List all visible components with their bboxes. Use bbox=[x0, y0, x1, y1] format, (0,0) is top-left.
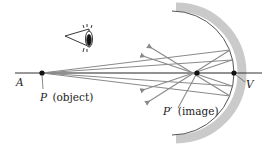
axis-label-a: A bbox=[15, 76, 24, 88]
eye-icon bbox=[65, 24, 93, 52]
image-point bbox=[194, 70, 199, 75]
incident-rays bbox=[42, 50, 234, 96]
concave-mirror-diagram: A P (object) P′ (image) V bbox=[0, 0, 272, 150]
image-label: P′ (image) bbox=[162, 105, 219, 117]
vertex-point bbox=[231, 70, 236, 75]
object-leader bbox=[42, 75, 43, 89]
reflected-rays bbox=[143, 47, 232, 108]
object-label: P (object) bbox=[39, 91, 93, 103]
object-point bbox=[39, 70, 44, 75]
vertex-label: V bbox=[246, 78, 255, 90]
